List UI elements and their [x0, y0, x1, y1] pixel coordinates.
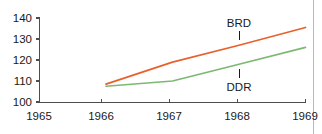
x-tick-label-1967: 1967 [156, 110, 182, 122]
series-label-brd: BRD [227, 17, 251, 29]
line-chart-figure: 140 130 120 110 100 1965 1966 1967 1968 … [0, 0, 322, 134]
x-tick-label-1965: 1965 [26, 110, 52, 122]
series-label-ddr: DDR [227, 81, 252, 93]
x-tick-label-1968: 1968 [224, 110, 250, 122]
y-tick-label-110: 110 [14, 75, 32, 87]
y-tick-label-130: 130 [13, 33, 32, 45]
x-tick-label-1966: 1966 [88, 110, 114, 122]
chart-plot-area: 140 130 120 110 100 1965 1966 1967 1968 … [0, 0, 322, 134]
y-tick-label-120: 120 [13, 54, 32, 66]
y-tick-label-100: 100 [13, 96, 32, 108]
x-tick-label-1969: 1969 [292, 110, 318, 122]
y-tick-label-140: 140 [13, 12, 32, 24]
